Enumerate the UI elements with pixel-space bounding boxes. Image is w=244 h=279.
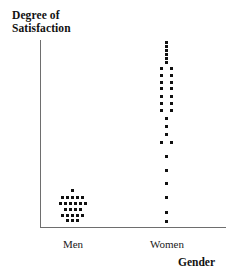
data-point [160,87,163,90]
data-point [160,109,163,112]
data-point [74,202,77,205]
data-point [165,211,168,214]
data-point [170,109,173,112]
data-point [160,81,163,84]
data-point [71,214,74,217]
y-axis-title: Degree of Satisfaction [12,9,142,34]
data-point [61,214,64,217]
data-point [71,219,74,222]
data-point [71,196,74,199]
data-point [165,53,168,56]
data-point [64,202,67,205]
data-point [165,57,168,60]
data-series-women [0,0,244,279]
data-point [69,202,72,205]
data-series-men [0,0,244,279]
data-point [81,214,84,217]
data-point [160,67,163,70]
data-point [74,208,77,211]
data-point [165,125,168,128]
data-point [160,95,163,98]
x-tick-label-men: Men [44,238,102,251]
data-point [64,208,67,211]
data-point [76,214,79,217]
y-axis-line [40,40,41,228]
data-point [165,196,168,199]
data-point [165,182,168,185]
data-point [165,155,168,158]
data-point [76,219,79,222]
data-point [165,220,168,223]
data-point [59,202,62,205]
x-tick-label-women: Women [134,238,200,251]
data-point [165,117,168,120]
data-point [79,202,82,205]
data-point [170,67,173,70]
data-point [165,45,168,48]
data-point [165,61,168,64]
data-point [170,102,173,105]
data-point [160,74,163,77]
data-point [61,196,64,199]
data-point [170,95,173,98]
data-point [170,81,173,84]
data-point [160,102,163,105]
dot-plot-figure: Degree of Satisfaction Men Women Gender [0,0,244,279]
data-point [165,133,168,136]
data-point [170,74,173,77]
data-point [71,189,74,192]
data-point [165,169,168,172]
data-point [66,196,69,199]
x-axis-title: Gender [178,256,215,269]
data-point [170,141,173,144]
data-point [81,196,84,199]
data-point [160,141,163,144]
data-point [69,208,72,211]
data-point [76,196,79,199]
x-axis-line [40,227,226,228]
data-point [170,87,173,90]
data-point [79,208,82,211]
data-point [84,202,87,205]
data-point [165,41,168,44]
data-point [66,219,69,222]
data-point [66,214,69,217]
data-point [165,49,168,52]
